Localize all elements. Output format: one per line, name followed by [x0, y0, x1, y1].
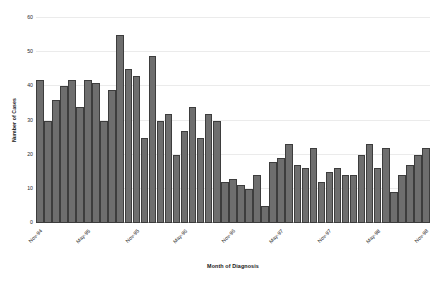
bar — [92, 83, 100, 223]
bar — [374, 168, 382, 223]
x-axis-tick-label-text: May-95 — [75, 228, 91, 244]
y-axis-tick-label: 30 — [27, 117, 33, 123]
x-axis-tick-label-text: May-97 — [268, 228, 284, 244]
x-axis-tick-label-text: Nov-96 — [220, 228, 236, 244]
bar — [213, 121, 221, 224]
bar — [318, 182, 326, 223]
bar — [350, 175, 358, 223]
bar — [44, 121, 52, 224]
bar — [277, 158, 285, 223]
bar — [294, 165, 302, 223]
bar — [205, 114, 213, 223]
bar — [141, 138, 149, 223]
bar — [133, 76, 141, 223]
bar — [173, 155, 181, 223]
bar — [326, 172, 334, 223]
bar — [100, 121, 108, 224]
bar — [302, 168, 310, 223]
bar-chart: Number of Cases 0102030405060 Nov-94May-… — [0, 0, 440, 282]
bar — [310, 148, 318, 223]
bar — [285, 144, 293, 223]
bar — [406, 165, 414, 223]
bar — [60, 86, 68, 223]
bar — [366, 144, 374, 223]
bar — [36, 80, 44, 224]
bar — [390, 192, 398, 223]
bar — [261, 206, 269, 223]
x-axis-tick-label-text: May-96 — [171, 228, 187, 244]
x-axis-tick-label-text: Nov-95 — [124, 228, 140, 244]
x-axis-title: Month of Diagnosis — [36, 263, 430, 269]
x-axis-tick-label-text: May-98 — [364, 228, 380, 244]
bar — [189, 107, 197, 223]
bar — [342, 175, 350, 223]
bar — [76, 107, 84, 223]
bar — [398, 175, 406, 223]
bar — [422, 148, 430, 223]
bar — [334, 168, 342, 223]
y-axis-tick-label: 40 — [27, 82, 33, 88]
bar — [197, 138, 205, 223]
bar — [165, 114, 173, 223]
x-axis-tick-labels: Nov-94May-95Nov-95May-96Nov-96May-97Nov-… — [36, 224, 430, 258]
y-axis-tick-label: 60 — [27, 14, 33, 20]
bar — [84, 80, 92, 224]
plot-area: 0102030405060 — [36, 18, 430, 223]
y-axis-tick-label: 0 — [30, 219, 33, 225]
y-axis-title-text: Number of Cases — [11, 98, 17, 142]
bar — [269, 162, 277, 224]
bar — [382, 148, 390, 223]
bar — [52, 100, 60, 223]
bar — [414, 155, 422, 223]
bar — [157, 121, 165, 224]
bar — [68, 80, 76, 224]
y-axis-title: Number of Cases — [6, 80, 22, 160]
y-axis-tick-label: 50 — [27, 48, 33, 54]
x-axis-tick-label-text: Nov-94 — [27, 228, 43, 244]
bar — [221, 182, 229, 223]
x-axis-tick-label-text: Nov-97 — [317, 228, 333, 244]
bar — [108, 90, 116, 223]
bar — [229, 179, 237, 223]
bar — [125, 69, 133, 223]
bar — [245, 189, 253, 223]
bar-series — [36, 18, 430, 223]
bar — [358, 155, 366, 223]
y-axis-tick-label: 20 — [27, 151, 33, 157]
bar — [116, 35, 124, 223]
x-axis-tick-label-text: Nov-98 — [413, 228, 429, 244]
bar — [149, 56, 157, 223]
bar — [253, 175, 261, 223]
y-axis-tick-label: 10 — [27, 185, 33, 191]
bar — [181, 131, 189, 223]
